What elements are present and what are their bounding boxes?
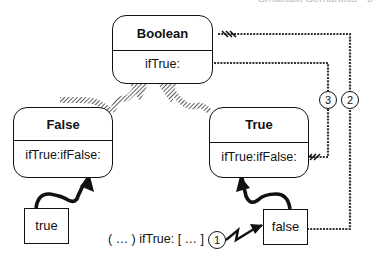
step-marker-2: 2 [341, 91, 359, 109]
divider [14, 140, 112, 141]
step-marker-1: 1 [208, 231, 226, 249]
instance-link-false [236, 176, 290, 209]
instance-label: false [272, 219, 299, 234]
class-name: False [14, 117, 112, 132]
method-label: ifTrue:ifFalse: [210, 150, 308, 164]
class-true: True ifTrue:ifFalse: [209, 107, 309, 178]
instance-link-true [36, 176, 94, 208]
divider [113, 50, 212, 51]
method-label: ifTrue: [113, 57, 212, 71]
message-send-arrow [226, 224, 263, 240]
inheritance-link-true [158, 84, 210, 112]
class-boolean: Boolean ifTrue: [112, 15, 213, 84]
step-marker-3: 3 [319, 91, 337, 109]
instance-false: false [263, 209, 308, 245]
class-name: Boolean [113, 26, 212, 41]
instance-label: true [35, 218, 57, 233]
message-expression: ( … ) ifTrue: [ … ] [108, 232, 204, 246]
divider [210, 142, 308, 143]
method-label: ifTrue:ifFalse: [14, 148, 112, 162]
class-false: False ifTrue:ifFalse: [13, 107, 113, 178]
instance-true: true [24, 208, 69, 244]
class-name: True [210, 117, 308, 132]
